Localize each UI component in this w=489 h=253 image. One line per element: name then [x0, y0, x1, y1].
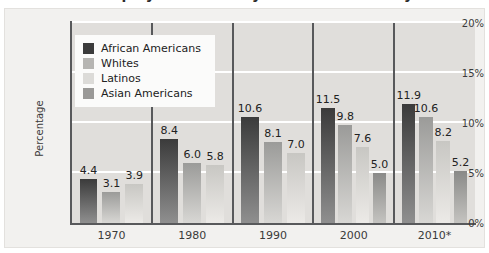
- legend-item-label: Latinos: [101, 72, 141, 85]
- legend-item: Whites: [83, 56, 201, 71]
- legend-swatch-icon: [83, 58, 94, 69]
- x-axis-tick-label: 1970: [97, 229, 125, 242]
- y-axis-tick-label: 20%: [424, 18, 484, 29]
- x-axis-tick-label: 2000: [340, 229, 368, 242]
- legend-item-label: Whites: [101, 57, 139, 70]
- y-axis-tick-label: 0%: [424, 218, 484, 229]
- legend-item-label: Asian Americans: [101, 87, 193, 100]
- chart-card: 4.43.13.98.46.05.810.68.17.011.59.87.65.…: [4, 8, 485, 248]
- chart-title-cropped: Unemployment Rate by Race and Ethnicity: [0, 0, 489, 8]
- legend-item: Asian Americans: [83, 86, 201, 101]
- chart-legend: African AmericansWhitesLatinosAsian Amer…: [75, 35, 215, 107]
- legend-swatch-icon: [83, 73, 94, 84]
- legend-swatch-icon: [83, 43, 94, 54]
- x-axis-tick-label: 1980: [178, 229, 206, 242]
- legend-swatch-icon: [83, 88, 94, 99]
- y-axis-tick-label: 10%: [424, 118, 484, 129]
- legend-item-label: African Americans: [101, 42, 201, 55]
- x-axis-tick-label: 1990: [259, 229, 287, 242]
- y-axis-label: Percentage: [34, 89, 45, 169]
- x-axis-line: [70, 223, 476, 225]
- x-axis-tick-label: 2010*: [418, 229, 452, 242]
- group-separator: [393, 23, 395, 223]
- legend-item: Latinos: [83, 71, 201, 86]
- y-axis-tick-label: 15%: [424, 68, 484, 79]
- group-separator: [312, 23, 314, 223]
- y-axis-tick-label: 5%: [424, 168, 484, 179]
- group-separator: [232, 23, 234, 223]
- legend-item: African Americans: [83, 41, 201, 56]
- chart-title-text: Unemployment Rate by Race and Ethnicity: [0, 0, 489, 2]
- y-axis-line: [70, 21, 72, 225]
- chart-screenshot: Unemployment Rate by Race and Ethnicity …: [0, 0, 489, 253]
